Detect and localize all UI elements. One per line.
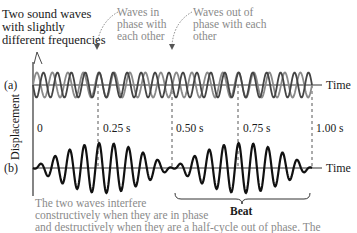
time-label-b: Time bbox=[326, 162, 351, 175]
two-waves-note: Two sound waves with slightly different … bbox=[2, 8, 106, 47]
note-line: Waves in bbox=[117, 6, 167, 18]
wave-2 bbox=[33, 73, 312, 98]
time-label-a: Time bbox=[326, 79, 351, 92]
caption-line: and destructively when they are a half-c… bbox=[35, 221, 321, 233]
caption: The two waves interfere constructively w… bbox=[35, 197, 321, 233]
note-line: other bbox=[193, 30, 266, 42]
note-line: Waves out of bbox=[193, 6, 266, 18]
note-line: different frequencies bbox=[2, 34, 106, 47]
panel-b-label: (b) bbox=[4, 162, 18, 175]
caption-line: The two waves interfere bbox=[35, 197, 321, 209]
note-line: phase with each bbox=[193, 18, 266, 30]
tick-050: 0.50 s bbox=[176, 122, 203, 134]
tick-075: 0.75 s bbox=[243, 122, 270, 134]
two-waves-pointer bbox=[34, 52, 42, 64]
tick-0: 0 bbox=[37, 122, 43, 134]
tick-025: 0.25 s bbox=[103, 122, 130, 134]
out-of-phase-arrow bbox=[172, 12, 192, 45]
in-phase-note: Waves in phase with each other bbox=[117, 6, 167, 42]
caption-line: constructively when they are in phase bbox=[35, 209, 321, 221]
y-axis-label: Displacement bbox=[8, 94, 23, 160]
out-of-phase-arrowhead bbox=[169, 44, 175, 50]
note-line: phase with bbox=[117, 18, 167, 30]
note-line: each other bbox=[117, 30, 167, 42]
panel-a-label: (a) bbox=[4, 79, 17, 92]
tick-100: 1.00 s bbox=[316, 122, 343, 134]
out-of-phase-note: Waves out of phase with each other bbox=[193, 6, 266, 42]
